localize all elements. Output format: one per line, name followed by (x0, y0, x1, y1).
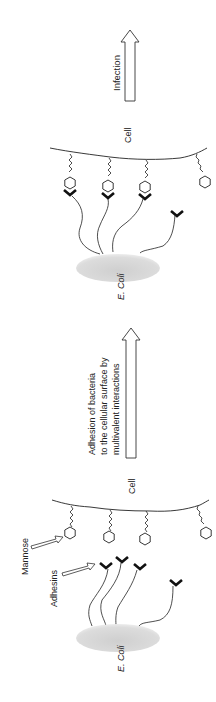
mannose-icon (200, 176, 210, 188)
top-mannose-group (65, 154, 210, 193)
adhesion-label-line1: Adhesion of bacteria (87, 373, 97, 455)
mannose-icon (201, 527, 211, 539)
adhesion-label-line2: to the cellular surface by (99, 357, 109, 455)
adhesion-transition: Adhesion of bacteria to the cellular sur… (87, 328, 140, 458)
adhesin-icon (134, 564, 146, 569)
adhesion-diagram: Infection Cell (0, 0, 216, 702)
bottom-panel: Cell Mannose Adhesins (20, 478, 211, 672)
top-cell-membrane (50, 148, 207, 159)
adhesins-label: Adhesins (49, 569, 59, 607)
bottom-pili (89, 563, 173, 626)
bottom-ecoli-label: E. Coli (116, 644, 126, 672)
adhesin-icon (100, 563, 112, 568)
mannose-icon (65, 177, 75, 189)
adhesin-icon (139, 194, 151, 199)
adhesin-icon (64, 190, 76, 195)
mannose-label: Mannose (20, 538, 30, 575)
adhesion-label-line3: multivalent interactions (111, 363, 121, 455)
top-pili (72, 196, 175, 254)
infection-arrow (121, 30, 139, 101)
adhesins-pointer-arrow (62, 563, 95, 576)
bottom-cell-label: Cell (127, 478, 137, 494)
adhesion-arrow (122, 328, 140, 458)
mannose-icon (140, 533, 150, 545)
adhesin-icon (102, 193, 114, 198)
adhesin-icon (116, 557, 128, 562)
adhesin-icon (171, 211, 183, 216)
mannose-icon (103, 180, 113, 192)
top-ecoli-label: E. Coli (116, 272, 126, 300)
mannose-icon (140, 181, 150, 193)
top-panel: Infection Cell (50, 30, 210, 300)
bottom-mannose-group (65, 506, 211, 545)
mannose-pointer-arrow (31, 536, 63, 549)
bottom-cell-membrane (52, 500, 209, 511)
bottom-adhesins (100, 557, 182, 585)
top-cell-label: Cell (123, 127, 133, 143)
infection-label: Infection (111, 55, 122, 91)
adhesin-icon (170, 580, 182, 585)
mannose-icon (65, 527, 75, 539)
mannose-icon (104, 531, 114, 543)
